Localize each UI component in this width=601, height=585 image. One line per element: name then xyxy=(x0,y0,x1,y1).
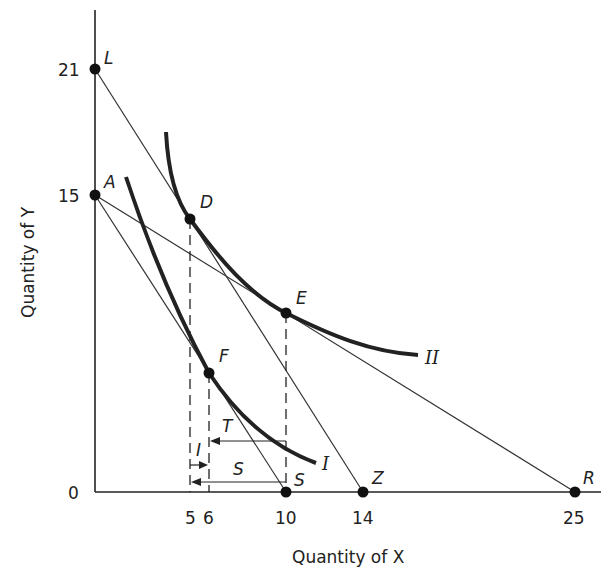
label-d: D xyxy=(200,192,213,212)
x-tick-25: 25 xyxy=(563,508,585,528)
y-tick-21: 21 xyxy=(58,60,80,80)
substitution-effect-arrow xyxy=(191,478,286,486)
label-f: F xyxy=(219,346,229,366)
x-tick-5: 5 xyxy=(185,508,196,528)
point-s xyxy=(281,487,292,498)
label-curve-ii: II xyxy=(424,347,440,368)
x-tick-14: 14 xyxy=(352,508,374,528)
label-curve-i: I xyxy=(321,453,330,474)
point-f xyxy=(204,368,215,379)
x-tick-6: 6 xyxy=(203,508,214,528)
label-a: A xyxy=(103,172,116,192)
label-income-effect: I xyxy=(196,440,201,460)
point-z xyxy=(358,487,369,498)
x-tick-10: 10 xyxy=(275,508,297,528)
point-a xyxy=(90,190,101,201)
x-axis-label: Quantity of X xyxy=(292,547,405,567)
label-e: E xyxy=(296,288,307,308)
label-substitution-effect: S xyxy=(233,459,244,479)
indifference-curve-chart: L A D E F S Z R T I S I II 21 15 0 5 6 1… xyxy=(0,0,601,585)
indifference-curve-ii xyxy=(166,132,418,355)
y-tick-15: 15 xyxy=(58,186,80,206)
indifference-curve-i xyxy=(126,177,316,463)
y-tick-0: 0 xyxy=(68,483,79,503)
y-axis-label: Quantity of Y xyxy=(18,206,38,318)
label-z: Z xyxy=(371,468,384,488)
point-d xyxy=(185,214,196,225)
point-l xyxy=(90,64,101,75)
label-total-effect: T xyxy=(222,416,234,436)
point-r xyxy=(570,487,581,498)
label-r: R xyxy=(583,468,595,488)
income-effect-arrow xyxy=(190,461,208,469)
point-e xyxy=(281,308,292,319)
label-s-point: S xyxy=(294,470,305,490)
label-l: L xyxy=(104,48,113,68)
